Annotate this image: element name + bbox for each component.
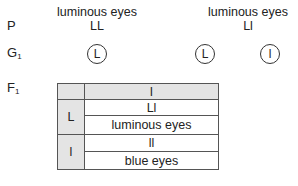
parent-left-genotype: LL xyxy=(90,19,104,33)
gamete-circle-left-1: L xyxy=(87,44,107,64)
gamete-label: L xyxy=(94,47,101,61)
gamete-circle-right-2: l xyxy=(260,44,280,64)
parent-right-genotype: Ll xyxy=(243,19,253,33)
p-row-label: P xyxy=(7,19,16,33)
parent-left-phenotype: luminous eyes xyxy=(57,5,137,19)
f1-row-label: F1 xyxy=(7,81,19,99)
punnett-square: l L Ll luminous eyes l ll blue eyes xyxy=(57,83,219,170)
gamete-label: L xyxy=(202,47,209,61)
corner-cell xyxy=(58,84,85,100)
offspring-phenotype-2: blue eyes xyxy=(85,152,219,170)
row-gamete-2: l xyxy=(58,135,85,170)
gamete-label: l xyxy=(269,47,272,61)
offspring-phenotype-1: luminous eyes xyxy=(85,116,219,135)
row-gamete-1: L xyxy=(58,100,85,135)
offspring-genotype-2: ll xyxy=(85,135,219,152)
offspring-genotype-1: Ll xyxy=(85,100,219,116)
g1-row-label: G1 xyxy=(7,46,22,64)
g-label: G xyxy=(7,45,17,60)
f-label: F xyxy=(7,80,15,95)
gamete-circle-right-1: L xyxy=(195,44,215,64)
f-subscript: 1 xyxy=(15,87,19,96)
parent-right-phenotype: luminous eyes xyxy=(208,5,288,19)
g-subscript: 1 xyxy=(17,52,21,61)
column-gamete-header: l xyxy=(85,84,219,100)
